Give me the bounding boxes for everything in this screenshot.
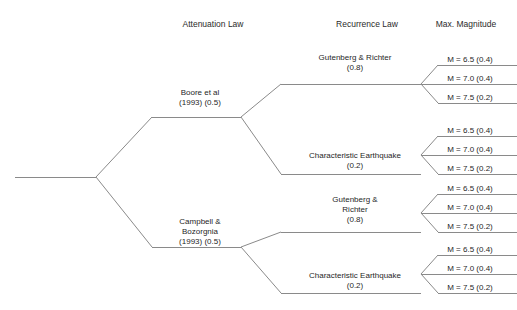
ce1-label-line-2: (0.2) [347, 161, 364, 170]
leaf-label-m65: M = 6.5 (0.4) [447, 55, 493, 64]
node-recurrence-ce-1[interactable]: Characteristic Earthquake (0.2) [281, 151, 421, 174]
leaf-fan-line [421, 213, 438, 232]
node-recurrence-ce-2[interactable]: Characteristic Earthquake (0.2) [281, 271, 421, 293]
campbell-to-ce-line [241, 247, 281, 293]
leaf-label-m70: M = 7.0 (0.4) [447, 145, 493, 154]
leaf-label-m75: M = 7.5 (0.2) [447, 164, 493, 173]
leaf-label-m75: M = 7.5 (0.2) [447, 283, 493, 292]
leaf-fan-line [421, 194, 438, 213]
leaf-label-m65: M = 6.5 (0.4) [447, 126, 493, 135]
root-to-boore-line [96, 117, 152, 177]
logic-tree-diagram: Attenuation Law Recurrence Law Max. Magn… [0, 0, 517, 310]
leaf-group-ce-2: M = 6.5 (0.4) M = 7.0 (0.4) M = 7.5 (0.2… [421, 245, 517, 293]
leaf-group-ce-1: M = 6.5 (0.4) M = 7.0 (0.4) M = 7.5 (0.2… [421, 126, 517, 174]
node-recurrence-gr-2[interactable]: Gutenberg & Richter (0.8) [281, 195, 421, 232]
gr1-label-line-1: Gutenberg & Richter [319, 53, 392, 62]
node-recurrence-gr-1[interactable]: Gutenberg & Richter (0.8) [281, 53, 421, 84]
leaf-label-m65: M = 6.5 (0.4) [447, 245, 493, 254]
boore-to-ce-line [241, 117, 281, 174]
leaf-fan-line [421, 84, 438, 103]
campbell-to-gr-line [241, 232, 281, 247]
leaf-label-m70: M = 7.0 (0.4) [447, 264, 493, 273]
gr1-label-line-2: (0.8) [347, 63, 364, 72]
campbell-label-line-3: (1993) (0.5) [179, 237, 221, 246]
ce2-label-line-2: (0.2) [347, 281, 364, 290]
node-attenuation-campbell[interactable]: Campbell & Bozorgnia (1993) (0.5) [152, 217, 281, 293]
gr2-label-line-1: Gutenberg & [332, 195, 378, 204]
leaf-fan-line [421, 155, 438, 174]
boore-label-line-2: (1993) (0.5) [179, 98, 221, 107]
boore-label-line-1: Boore et al [181, 88, 220, 97]
ce2-label-line-1: Characteristic Earthquake [309, 271, 402, 280]
leaf-fan-line [421, 274, 438, 293]
leaf-label-m65: M = 6.5 (0.4) [447, 184, 493, 193]
node-attenuation-boore[interactable]: Boore et al (1993) (0.5) [152, 84, 281, 174]
leaf-fan-line [421, 136, 438, 155]
leaf-label-m70: M = 7.0 (0.4) [447, 203, 493, 212]
ce1-label-line-1: Characteristic Earthquake [309, 151, 402, 160]
leaf-fan-line [421, 255, 438, 274]
campbell-label-line-1: Campbell & [179, 217, 221, 226]
header-recurrence-law: Recurrence Law [336, 19, 399, 29]
root-to-campbell-line [96, 177, 152, 247]
gr2-label-line-3: (0.8) [347, 215, 364, 224]
leaf-label-m75: M = 7.5 (0.2) [447, 222, 493, 231]
leaf-fan-line [421, 65, 438, 84]
boore-to-gr-line [241, 84, 281, 117]
leaf-group-gr-1: M = 6.5 (0.4) M = 7.0 (0.4) M = 7.5 (0.2… [421, 55, 517, 103]
campbell-label-line-2: Bozorgnia [182, 227, 219, 236]
header-max-magnitude: Max. Magnitude [436, 19, 497, 29]
header-attenuation-law: Attenuation Law [183, 19, 245, 29]
leaf-label-m70: M = 7.0 (0.4) [447, 74, 493, 83]
leaf-label-m75: M = 7.5 (0.2) [447, 93, 493, 102]
root-branch [15, 117, 152, 247]
gr2-label-line-2: Richter [342, 205, 368, 214]
leaf-group-gr-2: M = 6.5 (0.4) M = 7.0 (0.4) M = 7.5 (0.2… [421, 184, 517, 232]
